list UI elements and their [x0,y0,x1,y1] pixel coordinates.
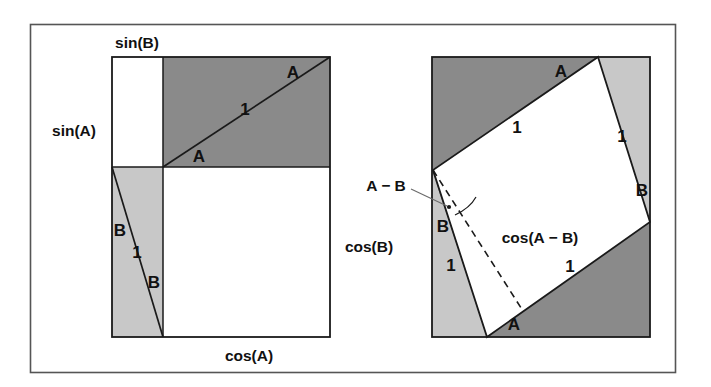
label-right-angle-a-bottom: A [508,315,520,334]
label-cos-a-minus-b: cos(A − B) [502,229,579,246]
label-right-hyp-bottom-left: 1 [446,256,455,275]
label-right-hyp-top-left: 1 [512,118,521,137]
label-sin-a: sin(A) [52,122,96,139]
right-angle-dot-marker [447,205,451,209]
label-right-hyp-bottom-right: 1 [565,257,574,276]
label-left-angle-a-top: A [287,63,299,82]
label-cos-b: cos(B) [345,238,393,255]
label-left-angle-b-top: B [114,221,126,240]
figure-container: sin(B) sin(A) cos(B) cos(A) A 1 A B 1 B [0,0,711,387]
label-left-hyp-top: 1 [240,100,249,119]
label-right-angle-b-left: B [437,217,449,236]
label-right-angle-a-top: A [555,62,567,81]
label-right-angle-difference: A − B [366,177,405,194]
label-left-hyp-bottom: 1 [132,243,141,262]
label-left-angle-b-bottom: B [148,273,160,292]
label-cos-a: cos(A) [225,347,273,364]
label-sin-b: sin(B) [115,34,159,51]
label-right-hyp-top-right: 1 [617,127,626,146]
trigonometry-identity-diagram: sin(B) sin(A) cos(B) cos(A) A 1 A B 1 B [0,0,711,387]
label-right-angle-b-right: B [636,181,648,200]
label-left-angle-a-bottom: A [193,147,205,166]
